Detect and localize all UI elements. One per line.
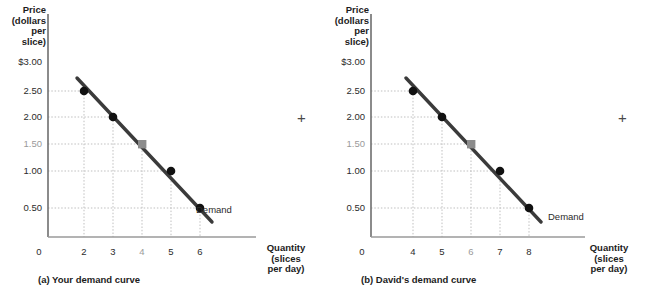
y-tick-label: 2.00 xyxy=(0,112,42,122)
x-tick-label-highlight: 6 xyxy=(462,247,480,257)
plot-area-b xyxy=(323,0,649,297)
x-tick-label-highlight: 4 xyxy=(133,247,151,257)
x-tick-label: 2 xyxy=(75,247,93,257)
axes-b xyxy=(371,14,585,237)
x-tick-label: 8 xyxy=(520,247,538,257)
y-tick-label: $3.00 xyxy=(0,57,42,67)
plus-icon: + xyxy=(618,110,627,125)
plus-icon: + xyxy=(297,110,306,125)
y-tick-label: 2.00 xyxy=(323,112,365,122)
gridlines-a xyxy=(48,91,200,237)
demand-curve-figure: Price (dollars per slice) Quantity (slic… xyxy=(0,0,653,297)
y-tick-label: 0.50 xyxy=(0,203,42,213)
origin-label: 0 xyxy=(353,247,371,257)
origin-label: 0 xyxy=(30,247,48,257)
x-tick-label: 7 xyxy=(491,247,509,257)
demand-curve-label: Demand xyxy=(548,212,584,222)
x-tick-label: 3 xyxy=(104,247,122,257)
x-tick-label: 5 xyxy=(433,247,451,257)
panel-davids-demand-curve: Price (dollars per slice) Quantity (slic… xyxy=(323,0,649,297)
gridlines-b xyxy=(371,91,529,237)
y-tick-label: 2.50 xyxy=(323,86,365,96)
y-tick-label: 0.50 xyxy=(323,203,365,213)
x-tick-label: 6 xyxy=(191,247,209,257)
panel-caption: (b) David's demand curve xyxy=(361,274,476,285)
y-tick-label: 1.00 xyxy=(323,166,365,176)
y-tick-label: 1.00 xyxy=(0,166,42,176)
x-tick-label: 5 xyxy=(162,247,180,257)
y-tick-label: 2.50 xyxy=(0,86,42,96)
y-tick-label: $3.00 xyxy=(323,57,365,67)
demand-curve-line-a xyxy=(77,78,212,222)
panel-your-demand-curve: Price (dollars per slice) Quantity (slic… xyxy=(0,0,326,297)
demand-curve-line-b xyxy=(406,78,541,222)
panel-caption: (a) Your demand curve xyxy=(38,274,140,285)
y-tick-label-highlight: 1.50 xyxy=(0,139,42,149)
y-tick-label-highlight: 1.50 xyxy=(323,139,365,149)
demand-curve-label: Demand xyxy=(196,205,232,215)
x-tick-label: 4 xyxy=(404,247,422,257)
